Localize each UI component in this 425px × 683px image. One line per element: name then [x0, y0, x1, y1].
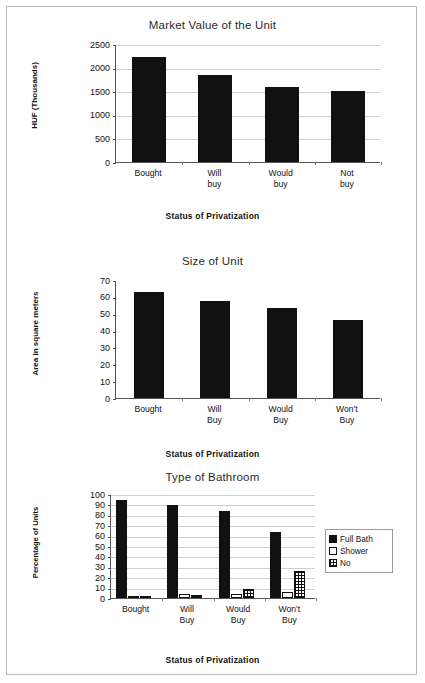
y-tick-label: 70	[100, 277, 110, 286]
x-tick-mark	[214, 598, 215, 601]
y-axis-label: Area in square meters	[31, 269, 40, 399]
bar	[128, 596, 139, 598]
legend-label: Full Bath	[340, 534, 373, 544]
y-tick-mark	[108, 516, 111, 517]
gridline	[111, 537, 315, 538]
x-tick-mark	[381, 162, 382, 165]
x-category-label: Would Buy	[247, 404, 315, 426]
bar	[116, 500, 127, 598]
y-tick-mark	[108, 589, 111, 590]
x-category-label: Will Buy	[180, 404, 248, 426]
x-tick-mark	[182, 162, 183, 165]
y-tick-label: 10	[95, 584, 105, 593]
x-tick-mark	[249, 162, 250, 165]
x-category-label: Won't Buy	[313, 404, 381, 426]
y-tick-label: 30	[95, 563, 105, 572]
y-tick-label: 1000	[90, 111, 110, 120]
bar	[134, 292, 164, 398]
y-tick-label: 90	[95, 501, 105, 510]
plot-canvas	[115, 281, 380, 399]
x-category-label: Won't Buy	[255, 604, 323, 626]
bar	[265, 87, 299, 162]
x-tick-mark	[315, 162, 316, 165]
legend-swatch-icon	[329, 535, 337, 543]
plot-area: Percentage of Units Full BathShowerNo St…	[7, 483, 418, 673]
y-tick-label: 50	[95, 543, 105, 552]
x-tick-mark	[249, 398, 250, 401]
chart-type-of-bathroom: Type of Bathroom Percentage of Units Ful…	[7, 471, 418, 673]
y-tick-mark	[113, 139, 116, 140]
bar	[267, 308, 297, 398]
y-tick-mark	[113, 116, 116, 117]
legend-label: No	[340, 558, 351, 568]
x-tick-mark	[381, 398, 382, 401]
y-tick-label: 50	[100, 310, 110, 319]
x-category-label: Will buy	[180, 168, 248, 190]
gridline	[111, 495, 315, 496]
chart-legend: Full BathShowerNo	[325, 529, 393, 573]
bar	[140, 596, 151, 598]
gridline	[116, 45, 380, 46]
plot-area: HUF (Thousands) Status of Privatization …	[7, 31, 418, 211]
y-tick-label: 60	[95, 532, 105, 541]
y-tick-mark	[113, 399, 116, 400]
y-tick-mark	[113, 365, 116, 366]
y-tick-mark	[113, 45, 116, 46]
chart-title: Type of Bathroom	[7, 471, 418, 483]
plot-area: Area in square meters Status of Privatiz…	[7, 267, 418, 452]
y-tick-mark	[113, 163, 116, 164]
bar	[179, 594, 190, 598]
chart-title: Market Value of the Unit	[7, 19, 418, 31]
y-tick-mark	[113, 348, 116, 349]
y-tick-mark	[113, 315, 116, 316]
y-tick-mark	[108, 568, 111, 569]
y-tick-label: 80	[95, 511, 105, 520]
bar	[243, 589, 254, 598]
legend-item[interactable]: Full Bath	[329, 533, 388, 545]
y-tick-mark	[113, 281, 116, 282]
legend-item[interactable]: Shower	[329, 545, 388, 557]
bar	[294, 571, 305, 598]
document-page: Market Value of the Unit HUF (Thousands)…	[6, 6, 417, 675]
y-tick-mark	[113, 92, 116, 93]
y-tick-label: 40	[95, 553, 105, 562]
y-tick-label: 40	[100, 327, 110, 336]
y-tick-label: 100	[90, 491, 105, 500]
y-tick-label: 1500	[90, 88, 110, 97]
x-category-label: Bought	[114, 404, 182, 415]
legend-item[interactable]: No	[329, 557, 388, 569]
gridline	[111, 547, 315, 548]
legend-label: Shower	[340, 546, 368, 556]
x-tick-mark	[265, 598, 266, 601]
chart-size-of-unit: Size of Unit Area in square meters Statu…	[7, 255, 418, 452]
y-tick-label: 10	[100, 378, 110, 387]
y-tick-mark	[108, 526, 111, 527]
plot-canvas	[115, 45, 380, 163]
chart-title: Size of Unit	[7, 255, 418, 267]
gridline	[111, 526, 315, 527]
bar	[219, 511, 230, 598]
y-tick-mark	[113, 298, 116, 299]
y-tick-label: 30	[100, 344, 110, 353]
y-tick-label: 0	[100, 595, 105, 604]
bar	[282, 592, 293, 598]
y-axis-label: Percentage of Units	[31, 483, 40, 603]
y-axis-label: HUF (Thousands)	[30, 41, 39, 151]
legend-swatch-icon	[329, 547, 337, 555]
y-tick-label: 20	[95, 574, 105, 583]
bar	[200, 301, 230, 398]
gridline	[111, 578, 315, 579]
y-tick-mark	[108, 547, 111, 548]
x-tick-mark	[315, 398, 316, 401]
plot-canvas	[110, 495, 315, 599]
y-tick-mark	[113, 382, 116, 383]
x-category-label: Would buy	[247, 168, 315, 190]
y-tick-mark	[108, 599, 111, 600]
x-tick-mark	[162, 598, 163, 601]
y-tick-label: 20	[100, 361, 110, 370]
x-tick-mark	[182, 398, 183, 401]
y-tick-mark	[108, 537, 111, 538]
y-tick-label: 2000	[90, 64, 110, 73]
bar	[198, 75, 232, 162]
chart-market-value: Market Value of the Unit HUF (Thousands)…	[7, 19, 418, 211]
